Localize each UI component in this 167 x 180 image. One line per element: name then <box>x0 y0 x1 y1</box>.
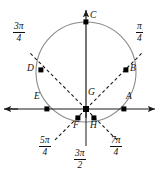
fraction-numerator: π <box>136 22 143 32</box>
fraction-denominator: 4 <box>39 146 51 157</box>
fraction-denominator: 4 <box>13 32 25 43</box>
fraction-numerator: 3π <box>74 149 86 159</box>
angle-label-three-pi-over-two: 3π 2 <box>74 149 86 170</box>
point-E <box>44 106 49 111</box>
point-label-D: D <box>27 64 34 74</box>
angle-label-five-pi-over-four: 5π 4 <box>39 136 51 157</box>
figure-canvas: A B C D E F G H 3π 4 π 4 5π 4 3π 2 7π 4 <box>0 0 167 180</box>
point-label-F: F <box>73 121 79 131</box>
fraction-denominator: 4 <box>110 146 122 157</box>
point-label-B: B <box>130 64 136 74</box>
fraction-denominator: 4 <box>136 32 143 43</box>
angle-label-three-pi-over-four: 3π 4 <box>13 22 25 43</box>
point-B <box>123 67 128 72</box>
fraction-denominator: 2 <box>74 159 86 170</box>
ray-pi-over-four <box>86 53 142 109</box>
point-G <box>83 106 89 112</box>
fraction-numerator: 5π <box>39 136 51 146</box>
fraction-numerator: 3π <box>13 22 25 32</box>
point-label-G: G <box>88 88 95 98</box>
point-label-H: H <box>90 121 97 131</box>
fraction-numerator: 7π <box>110 136 122 146</box>
point-label-C: C <box>90 11 96 21</box>
angle-label-pi-over-four: π 4 <box>136 22 143 43</box>
point-label-A: A <box>126 92 132 102</box>
point-A <box>121 106 126 111</box>
angle-label-seven-pi-over-four: 7π 4 <box>110 136 122 157</box>
point-D <box>38 67 43 72</box>
point-C <box>83 19 88 24</box>
point-label-E: E <box>34 92 40 102</box>
